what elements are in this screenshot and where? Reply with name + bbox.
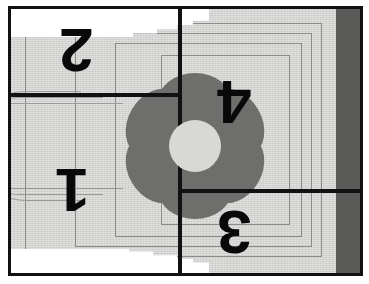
right-shadow-band — [336, 9, 360, 273]
grid-line-horizontal-right — [182, 189, 360, 193]
quadrant-label-4: 4 — [217, 71, 251, 133]
screenshot-canvas: 2 1 4 3 — [0, 0, 369, 284]
quilt-panel: 2 1 4 3 — [8, 6, 363, 276]
flower-applique — [97, 53, 293, 239]
quadrant-label-3: 3 — [217, 201, 251, 263]
flower-center — [169, 120, 221, 172]
quadrant-label-2: 2 — [59, 19, 93, 81]
quadrant-label-1: 1 — [55, 159, 89, 221]
grid-line-horizontal-left — [11, 93, 178, 97]
